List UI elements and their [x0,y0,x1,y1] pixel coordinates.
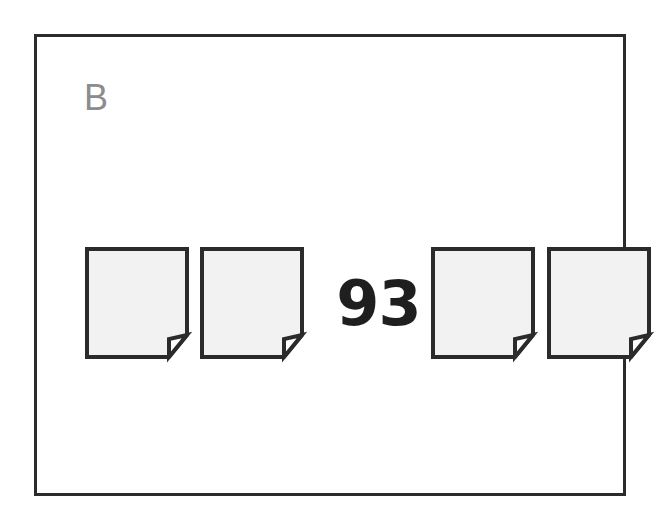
panel-label: B [84,80,108,116]
document-page-icon [547,247,651,359]
stimulus-canvas: B 93 [0,0,660,525]
stimulus-row: 93 [71,245,660,363]
center-number-value: 93 [326,245,431,363]
document-page-icon [200,247,304,359]
document-page-icon [85,247,189,359]
panel-frame: B 93 [34,34,626,496]
document-page-icon [431,247,535,359]
